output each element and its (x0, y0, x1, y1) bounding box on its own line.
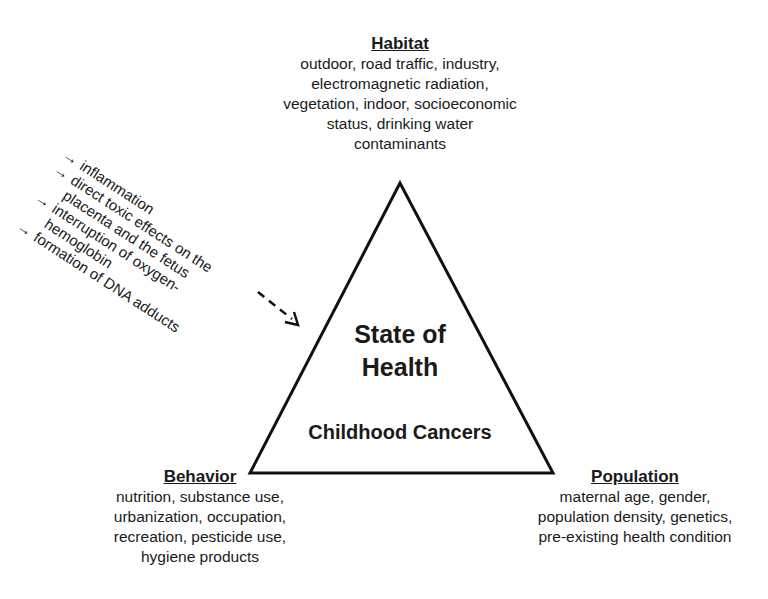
habitat-heading: Habitat (250, 33, 550, 54)
population-heading: Population (520, 466, 750, 487)
center-subtitle: Childhood Cancers (280, 421, 520, 444)
habitat-line: status, drinking water (250, 114, 550, 134)
habitat-line: electromagnetic radiation, (250, 74, 550, 94)
behavior-line: nutrition, substance use, (80, 487, 320, 507)
population-line: maternal age, gender, (520, 487, 750, 507)
population-factors: Population maternal age, gender, populat… (520, 466, 750, 547)
behavior-factors: Behavior nutrition, substance use, urban… (80, 466, 320, 567)
behavior-line: recreation, pesticide use, (80, 527, 320, 547)
population-line: pre-existing health condition (520, 527, 750, 547)
dashed-arrow (258, 292, 292, 319)
behavior-line: hygiene products (80, 547, 320, 567)
habitat-line: outdoor, road traffic, industry, (250, 54, 550, 74)
population-line: population density, genetics, (520, 507, 750, 527)
center-title-line2: Health (300, 351, 500, 383)
behavior-heading: Behavior (80, 466, 320, 487)
habitat-line: contaminants (250, 134, 550, 154)
center-title-line1: State of (300, 318, 500, 350)
habitat-line: vegetation, indoor, socioeconomic (250, 94, 550, 114)
habitat-factors: Habitat outdoor, road traffic, industry,… (250, 33, 550, 154)
behavior-line: urbanization, occupation, (80, 507, 320, 527)
